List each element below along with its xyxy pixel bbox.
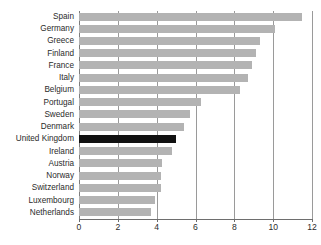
bar-netherlands (79, 208, 151, 216)
bar-row (79, 207, 312, 219)
x-tick-10 (273, 219, 274, 222)
bar-row (79, 109, 312, 121)
bar-row (79, 158, 312, 170)
bar-chart: SpainGermanyGreeceFinlandFranceItalyBelg… (0, 0, 321, 245)
bar-italy (79, 74, 248, 82)
x-label-12: 12 (307, 222, 317, 232)
bar-row (79, 11, 312, 23)
bar-greece (79, 37, 260, 45)
y-label-italy: Italy (0, 72, 74, 84)
bar-row (79, 84, 312, 96)
y-label-ireland: Ireland (0, 146, 74, 158)
bar-row (79, 146, 312, 158)
y-label-finland: Finland (0, 48, 74, 60)
bar-luxembourg (79, 196, 155, 204)
x-axis-tick-labels: 024681012 (0, 222, 321, 240)
bar-denmark (79, 123, 184, 131)
bar-ireland (79, 147, 172, 155)
y-label-sweden: Sweden (0, 109, 74, 121)
x-label-8: 8 (232, 222, 237, 232)
bar-france (79, 61, 252, 69)
x-tick-8 (234, 219, 235, 222)
bar-row (79, 97, 312, 109)
y-label-portugal: Portugal (0, 97, 74, 109)
bar-row (79, 133, 312, 145)
x-label-10: 10 (268, 222, 278, 232)
y-label-spain: Spain (0, 11, 74, 23)
y-label-austria: Austria (0, 158, 74, 170)
y-label-united-kingdom: United Kingdom (0, 133, 74, 145)
y-label-denmark: Denmark (0, 121, 74, 133)
bar-austria (79, 159, 162, 167)
y-label-netherlands: Netherlands (0, 207, 74, 219)
bar-germany (79, 25, 275, 33)
bar-sweden (79, 110, 190, 118)
y-label-belgium: Belgium (0, 84, 74, 96)
bar-series (79, 11, 312, 219)
x-tick-6 (196, 219, 197, 222)
bar-row (79, 121, 312, 133)
x-label-6: 6 (193, 222, 198, 232)
y-label-greece: Greece (0, 35, 74, 47)
x-label-2: 2 (115, 222, 120, 232)
bar-switzerland (79, 184, 161, 192)
bar-finland (79, 49, 256, 57)
y-label-switzerland: Switzerland (0, 182, 74, 194)
x-tick-12 (312, 219, 313, 222)
bar-row (79, 48, 312, 60)
bar-united-kingdom (79, 135, 176, 143)
x-tick-0 (79, 219, 80, 222)
plot-area (79, 11, 312, 219)
y-axis-category-labels: SpainGermanyGreeceFinlandFranceItalyBelg… (0, 11, 74, 219)
y-label-france: France (0, 60, 74, 72)
bar-norway (79, 172, 161, 180)
bar-row (79, 195, 312, 207)
bar-portugal (79, 98, 201, 106)
bar-row (79, 182, 312, 194)
bar-spain (79, 13, 302, 21)
bar-row (79, 23, 312, 35)
bar-row (79, 35, 312, 47)
bar-row (79, 60, 312, 72)
gridline-12 (312, 11, 313, 219)
y-label-germany: Germany (0, 23, 74, 35)
bar-row (79, 72, 312, 84)
bar-row (79, 170, 312, 182)
bar-belgium (79, 86, 240, 94)
y-label-luxembourg: Luxembourg (0, 195, 74, 207)
x-label-4: 4 (154, 222, 159, 232)
y-label-norway: Norway (0, 170, 74, 182)
x-label-0: 0 (77, 222, 82, 232)
x-tick-2 (118, 219, 119, 222)
x-tick-4 (157, 219, 158, 222)
